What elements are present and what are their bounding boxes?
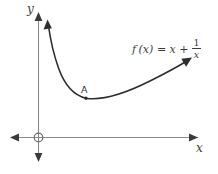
formula-argument: (x)	[139, 44, 154, 55]
formula-fraction-numerator: 1	[193, 38, 201, 49]
x-axis-label: x	[196, 142, 203, 154]
graph-canvas	[0, 0, 218, 174]
formula-fraction: 1 x	[192, 38, 201, 60]
formula-plus-sign: +	[179, 44, 188, 55]
formula-equals-sign: =	[157, 44, 166, 55]
point-a-dot	[84, 97, 87, 100]
function-formula: f(x) = x + 1 x	[132, 38, 201, 60]
y-axis-down-arrow-icon	[35, 153, 43, 162]
point-a-label: A	[81, 85, 88, 95]
formula-function-name: f	[132, 44, 136, 55]
function-curve	[49, 26, 187, 99]
y-axis-up-arrow-icon	[35, 12, 43, 21]
curve-left-branch-arrow-icon	[44, 20, 52, 30]
formula-linear-term: x	[170, 44, 176, 55]
y-axis-label: y	[27, 3, 34, 15]
function-graph-figure: y x A f(x) = x + 1 x	[0, 0, 218, 174]
formula-fraction-denominator: x	[193, 49, 200, 60]
x-axis-left-arrow-icon	[10, 134, 19, 142]
